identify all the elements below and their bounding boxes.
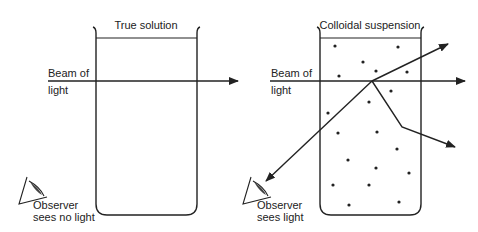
scattered-ray-down bbox=[372, 81, 455, 147]
particle bbox=[407, 171, 410, 174]
particle bbox=[397, 200, 400, 203]
panel-title-colloidal-suspension: Colloidal suspension bbox=[320, 19, 421, 31]
true-solution-panel: True solution Beam of light Observer see… bbox=[19, 19, 238, 223]
beam-label-right-1: Beam of bbox=[271, 67, 313, 79]
scattered-ray-up bbox=[372, 44, 448, 81]
particle bbox=[336, 131, 339, 134]
observer-label-left-2: sees no light bbox=[33, 211, 95, 223]
particle bbox=[389, 89, 392, 92]
particle bbox=[337, 74, 340, 77]
particle bbox=[361, 60, 364, 63]
observer-label-left-1: Observer bbox=[33, 199, 79, 211]
particle bbox=[326, 111, 329, 114]
particle bbox=[374, 166, 377, 169]
beam-label-right-2: light bbox=[271, 84, 291, 96]
scattered-ray-to-observer bbox=[266, 81, 372, 181]
particle bbox=[347, 203, 350, 206]
particle bbox=[367, 183, 370, 186]
observer-label-right-2: sees light bbox=[257, 211, 303, 223]
beam-label-left-2: light bbox=[48, 84, 68, 96]
panel-title-true-solution: True solution bbox=[114, 19, 177, 31]
beaker-left bbox=[93, 27, 200, 215]
particle bbox=[346, 158, 349, 161]
colloidal-suspension-panel: Colloidal suspension Beam of light Obser… bbox=[243, 19, 465, 223]
observer-label-right-1: Observer bbox=[257, 199, 303, 211]
particle bbox=[374, 69, 377, 72]
particle bbox=[395, 147, 398, 150]
particle bbox=[405, 70, 408, 73]
particle bbox=[331, 183, 334, 186]
particle bbox=[396, 45, 399, 48]
particle bbox=[367, 100, 370, 103]
particle bbox=[333, 44, 336, 47]
beam-label-left-1: Beam of bbox=[48, 67, 90, 79]
tyndall-effect-diagram: True solution Beam of light Observer see… bbox=[0, 0, 478, 232]
beaker-right bbox=[317, 27, 424, 215]
particle bbox=[375, 130, 378, 133]
